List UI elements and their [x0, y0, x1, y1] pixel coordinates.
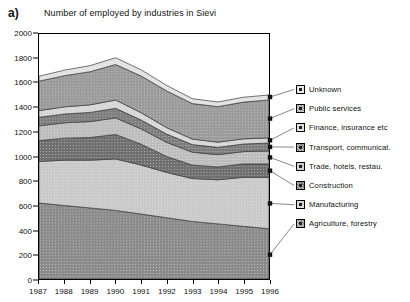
x-axis-tick-mark — [270, 280, 271, 284]
y-axis-tick-label: 400 — [19, 226, 32, 235]
y-axis-tick-label: 1400 — [14, 103, 32, 112]
x-axis-tick-label: 1993 — [184, 287, 202, 296]
x-axis-tick-mark — [193, 280, 194, 284]
legend-item[interactable]: Finance, insurance etc — [296, 118, 408, 137]
y-axis-tick-label: 800 — [19, 177, 32, 186]
legend-leader-line — [270, 90, 294, 98]
y-axis-tick-label: 2000 — [14, 29, 32, 38]
legend-swatch-icon — [296, 143, 305, 152]
legend-item-label: Finance, insurance etc — [309, 123, 388, 132]
legend-swatch-icon — [296, 85, 305, 94]
legend-swatch-icon — [296, 123, 305, 132]
legend-swatch-icon — [296, 162, 305, 171]
x-axis-tick-label: 1994 — [210, 287, 228, 296]
y-axis-tick-label: 1600 — [14, 78, 32, 87]
legend-leader-line — [270, 171, 294, 186]
x-axis-tick-label: 1991 — [132, 287, 150, 296]
legend-item-label: Trade, hotels, restau. — [309, 162, 383, 171]
panel-label: a) — [8, 6, 19, 20]
legend-item[interactable]: Trade, hotels, restau. — [296, 157, 408, 176]
y-axis: 0200400600800100012001400160018002000 — [0, 33, 38, 280]
legend-item-label: Transport, communicat. — [309, 143, 391, 152]
legend-item[interactable]: Agriculture, forestry — [296, 214, 408, 233]
x-axis-tick-label: 1987 — [29, 287, 47, 296]
chart-title: Number of employed by industries in Siev… — [44, 8, 216, 18]
legend-item-label: Unknown — [309, 85, 341, 94]
x-axis-tick-mark — [90, 280, 91, 284]
plot-area — [38, 33, 270, 280]
x-axis-tick-mark — [244, 280, 245, 284]
chart-page: a) Number of employed by industries in S… — [0, 0, 410, 302]
legend-swatch-icon — [296, 181, 305, 190]
x-axis: 1987198819891990199119921993199419951996 — [38, 280, 270, 302]
legend-swatch-icon — [296, 104, 305, 113]
legend-item[interactable]: Construction — [296, 176, 408, 195]
legend-item-label: Public services — [309, 104, 361, 113]
legend-leader-line — [270, 203, 294, 204]
legend-item-label: Construction — [309, 181, 353, 190]
legend-item-label: Manufacturing — [309, 200, 358, 209]
x-axis-tick-mark — [115, 280, 116, 284]
legend-swatch-icon — [296, 219, 305, 228]
legend-item[interactable]: Transport, communicat. — [296, 138, 408, 157]
x-axis-tick-mark — [141, 280, 142, 284]
x-axis-tick-mark — [38, 280, 39, 284]
x-axis-tick-label: 1988 — [55, 287, 73, 296]
x-axis-tick-label: 1995 — [235, 287, 253, 296]
x-axis-tick-mark — [218, 280, 219, 284]
legend: UnknownPublic servicesFinance, insurance… — [296, 80, 408, 234]
y-axis-tick-label: 1800 — [14, 53, 32, 62]
y-axis-tick-label: 1200 — [14, 127, 32, 136]
legend-leader-line — [270, 109, 294, 119]
y-axis-tick-label: 0 — [28, 276, 32, 285]
legend-item-label: Agriculture, forestry — [309, 219, 377, 228]
x-axis-tick-mark — [167, 280, 168, 284]
x-axis-tick-label: 1989 — [81, 287, 99, 296]
legend-leader-line — [270, 224, 294, 255]
legend-item[interactable]: Unknown — [296, 80, 408, 99]
y-axis-tick-label: 200 — [19, 251, 32, 260]
legend-item[interactable]: Manufacturing — [296, 195, 408, 214]
x-axis-tick-label: 1992 — [158, 287, 176, 296]
x-axis-tick-mark — [64, 280, 65, 284]
y-axis-tick-label: 1000 — [14, 152, 32, 161]
legend-leader-line — [270, 157, 294, 166]
legend-item[interactable]: Public services — [296, 99, 408, 118]
x-axis-tick-label: 1990 — [106, 287, 124, 296]
legend-swatch-icon — [296, 200, 305, 209]
y-axis-tick-label: 600 — [19, 201, 32, 210]
stacked-area-svg — [39, 34, 269, 279]
legend-leader-line — [270, 128, 294, 140]
x-axis-tick-label: 1996 — [261, 287, 279, 296]
